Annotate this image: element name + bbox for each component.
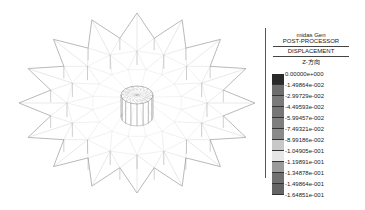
color-swatch [272, 162, 284, 173]
model-viewport[interactable] [0, 0, 262, 210]
legend-value-label: -1.19891e-001 [285, 159, 324, 165]
legend-value-label: 0.00000e+000 [285, 71, 324, 77]
legend-value-label: -1.49864e-001 [285, 181, 324, 187]
legend-result-type: DISPLACEMENT [273, 48, 349, 55]
color-swatch [272, 140, 284, 151]
contour-legend: midas Gen POST-PROCESSOR DISPLACEMENT Z-… [265, 28, 365, 183]
legend-divider [273, 56, 349, 57]
legend-value-label: -1.04905e-001 [285, 148, 324, 154]
legend-value-label: -1.64851e-001 [285, 192, 324, 198]
color-swatch [272, 85, 284, 96]
truss-structure-wireframe [0, 0, 262, 210]
legend-module: POST-PROCESSOR [273, 38, 349, 45]
legend-divider [273, 46, 349, 47]
legend-value-label: -1.49864e-002 [285, 82, 324, 88]
color-swatch [272, 107, 284, 118]
color-swatch [272, 74, 284, 85]
legend-value-label: -8.99186e-002 [285, 137, 324, 143]
color-swatch [272, 173, 284, 184]
color-swatch [272, 96, 284, 107]
legend-value-label: -1.34878e-001 [285, 170, 324, 176]
color-scale-bar [272, 74, 284, 195]
legend-component: Z-方向 [273, 59, 349, 66]
legend-value-label: -4.49593e-002 [285, 104, 324, 110]
legend-value-label: -7.49321e-002 [285, 126, 324, 132]
legend-value-label: -2.99729e-002 [285, 93, 324, 99]
legend-value-label: -5.99457e-002 [285, 115, 324, 121]
color-swatch [272, 151, 284, 162]
color-swatch [272, 129, 284, 140]
legend-frame-line [265, 28, 266, 178]
color-swatch [272, 118, 284, 129]
color-swatch [272, 184, 284, 195]
